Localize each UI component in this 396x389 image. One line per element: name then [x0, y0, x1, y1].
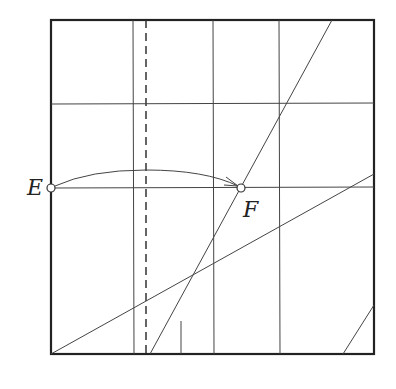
shallow-diagonal-crease: [51, 174, 374, 354]
vertical-crease-1: [133, 20, 134, 354]
point-E: [47, 184, 55, 192]
point-F: [237, 184, 245, 192]
crease-diagram: [0, 0, 396, 389]
label-F: F: [243, 199, 258, 221]
corner-diagonal-crease: [343, 305, 374, 354]
horizontal-crease-E-F: [51, 187, 374, 188]
label-E: E: [27, 177, 43, 199]
horizontal-crease-1: [51, 103, 374, 104]
